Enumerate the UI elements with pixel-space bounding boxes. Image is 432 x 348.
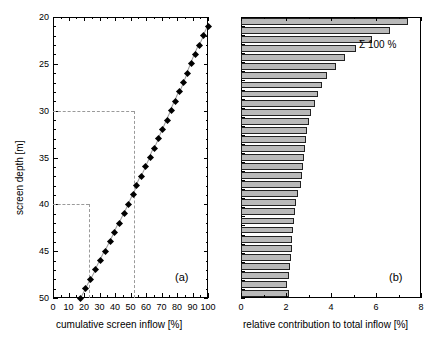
bar [241, 82, 322, 89]
bar [241, 154, 304, 161]
bar [241, 91, 318, 98]
x-minor-tick [354, 295, 355, 298]
bar [241, 281, 287, 288]
x-minor-tick [399, 295, 400, 298]
bar [241, 254, 291, 261]
category-tick [241, 90, 245, 91]
category-tick [241, 235, 245, 236]
bar [241, 199, 296, 206]
x-minor-tick [264, 295, 265, 298]
bar [241, 27, 390, 34]
bar [241, 54, 345, 61]
x-minor-tick-top [354, 17, 355, 19]
bar [241, 72, 327, 79]
category-tick [241, 35, 245, 36]
bar [241, 172, 302, 179]
x-major-tick-top [331, 17, 332, 21]
x-tick-label: 0 [229, 303, 253, 312]
category-tick [241, 71, 245, 72]
category-tick [241, 207, 245, 208]
bar [241, 118, 309, 125]
category-tick [241, 117, 245, 118]
x-major-tick [421, 293, 422, 298]
bar [241, 127, 307, 134]
category-tick [241, 171, 245, 172]
bar [241, 236, 292, 243]
category-tick [241, 135, 245, 136]
bar [241, 190, 298, 197]
category-tick [241, 253, 245, 254]
bar [241, 18, 408, 25]
x-tick-label: 8 [409, 303, 432, 312]
category-tick [241, 108, 245, 109]
category-tick [241, 198, 245, 199]
x-minor-tick [309, 295, 310, 298]
category-tick [241, 298, 245, 299]
bar [241, 272, 289, 279]
category-tick [241, 180, 245, 181]
category-tick [241, 17, 245, 18]
category-tick [241, 144, 245, 145]
figure-two-panel-chart: 010203040506070809010020253035404550 cum… [0, 0, 432, 348]
x-major-tick [331, 293, 332, 298]
category-tick [241, 162, 245, 163]
category-tick [241, 80, 245, 81]
x-tick-label: 4 [319, 303, 343, 312]
panel-b-x-axis-title: relative contribution to total inflow [%… [243, 320, 408, 330]
category-tick [241, 225, 245, 226]
category-tick [241, 53, 245, 54]
x-minor-tick-top [309, 17, 310, 19]
category-tick [241, 62, 245, 63]
category-tick [241, 289, 245, 290]
category-tick [241, 280, 245, 281]
category-tick [241, 26, 245, 27]
bar [241, 136, 306, 143]
x-major-tick-top [376, 17, 377, 21]
bar [241, 208, 295, 215]
x-major-tick-top [286, 17, 287, 21]
bar [241, 227, 293, 234]
x-minor-tick-top [264, 17, 265, 19]
category-tick [241, 153, 245, 154]
category-tick [241, 262, 245, 263]
bar [241, 100, 315, 107]
panel-b-label: (b) [389, 272, 402, 283]
bar [241, 36, 372, 43]
panel-b-sum-annotation: Σ 100 % [359, 40, 396, 50]
bar [241, 109, 311, 116]
x-major-tick-top [421, 17, 422, 21]
bar [241, 45, 356, 52]
bar [241, 181, 301, 188]
bar [241, 163, 303, 170]
category-tick [241, 189, 245, 190]
x-minor-tick-top [399, 17, 400, 19]
panel-b-relative-contribution: 02468 Σ 100 % relative contribution to t… [0, 0, 432, 348]
x-major-tick [286, 293, 287, 298]
bar [241, 263, 290, 270]
category-tick [241, 216, 245, 217]
category-tick [241, 126, 245, 127]
bar [241, 245, 292, 252]
x-major-tick [376, 293, 377, 298]
category-tick [241, 244, 245, 245]
x-tick-label: 2 [274, 303, 298, 312]
x-tick-label: 6 [364, 303, 388, 312]
bar [241, 63, 336, 70]
category-tick [241, 44, 245, 45]
bar [241, 145, 305, 152]
category-tick [241, 99, 245, 100]
bar [241, 290, 289, 297]
bar [241, 218, 294, 225]
category-tick [241, 271, 245, 272]
